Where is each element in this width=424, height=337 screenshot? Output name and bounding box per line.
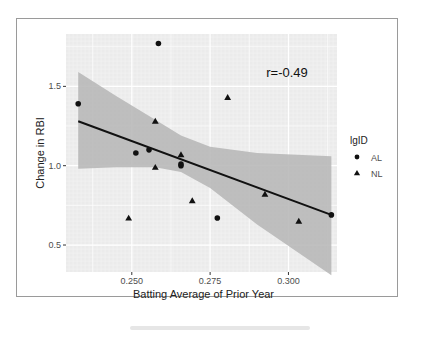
al-data-point xyxy=(329,212,335,218)
y-axis: 0.51.01.5 xyxy=(48,81,66,250)
al-data-point xyxy=(133,150,139,156)
legend-label: AL xyxy=(371,153,382,163)
al-data-point xyxy=(156,41,162,47)
svg-text:0.275: 0.275 xyxy=(199,276,222,286)
circle-icon xyxy=(355,155,360,160)
al-data-point xyxy=(146,147,152,153)
svg-text:0.300: 0.300 xyxy=(277,276,300,286)
svg-text:1.5: 1.5 xyxy=(48,81,61,91)
legend: lgID ALNL xyxy=(350,135,383,179)
al-data-point xyxy=(75,101,81,107)
triangle-icon xyxy=(354,170,360,175)
svg-text:0.5: 0.5 xyxy=(48,240,61,250)
al-data-point xyxy=(178,163,184,169)
correlation-annotation: r=-0.49 xyxy=(266,65,308,80)
legend-label: NL xyxy=(371,169,383,179)
legend-title: lgID xyxy=(350,135,368,146)
scatter-chart: 0.2500.2750.300 0.51.01.5 Batting Averag… xyxy=(0,0,424,337)
x-axis: 0.2500.2750.300 xyxy=(121,272,300,286)
al-data-point xyxy=(215,215,221,221)
legend-item-nl: NL xyxy=(354,169,383,179)
y-axis-label: Change in RBI xyxy=(34,117,46,189)
caption-placeholder xyxy=(130,326,310,330)
svg-text:0.250: 0.250 xyxy=(121,276,144,286)
svg-text:1.0: 1.0 xyxy=(48,161,61,171)
x-axis-label: Batting Average of Prior Year xyxy=(133,288,274,300)
legend-item-al: AL xyxy=(355,153,382,163)
